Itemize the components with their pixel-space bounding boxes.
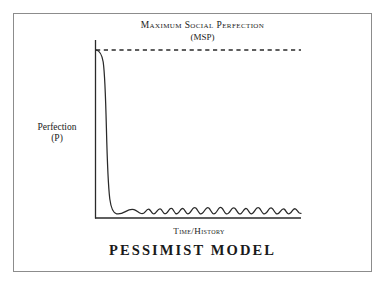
figure-caption: PESSIMIST MODEL — [13, 243, 372, 258]
msp-annotation-abbrev-text: (MSP) — [170, 32, 214, 42]
msp-annotation-title-text: Maximum Social Perfection — [121, 20, 265, 30]
perfection-curve — [96, 50, 301, 214]
pessimist-model-figure: Maximum Social Perfection (MSP) Perfecti… — [0, 0, 385, 283]
y-axis-label-line2: (P) — [24, 134, 90, 144]
x-axis-label: Time/History — [97, 227, 301, 236]
y-axis-label-line1: Perfection — [37, 122, 76, 132]
msp-annotation-abbrev: (MSP) — [0, 33, 385, 42]
y-axis-label: Perfection (P) — [24, 123, 90, 144]
msp-annotation-title: Maximum Social Perfection — [0, 21, 385, 31]
